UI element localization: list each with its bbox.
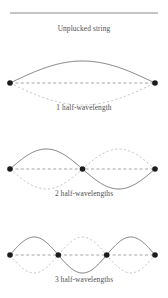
mode-3-group: 3 half-wavelengths (7, 237, 158, 284)
node-dot (152, 166, 158, 172)
node-dot (7, 252, 13, 258)
mode-2-caption: 2 half-wavelengths (55, 189, 113, 198)
unplucked-string-group: Unplucked string (10, 13, 158, 33)
node-dot (7, 80, 13, 86)
node-dot (152, 252, 158, 258)
node-dot (56, 252, 62, 258)
mode-1-curve (10, 61, 155, 83)
node-dot (7, 166, 13, 172)
mode-1-caption: 1 half-wavelength (56, 103, 111, 112)
node-dot (104, 252, 110, 258)
unplucked-string-label: Unplucked string (58, 24, 111, 33)
standing-wave-diagram: Unplucked string 1 half-wavelength 2 hal… (0, 0, 168, 298)
node-dot (152, 80, 158, 86)
mode-1-mirror-curve (10, 83, 155, 105)
mode-3-caption: 3 half-wavelengths (55, 275, 113, 284)
mode-2-group: 2 half-wavelengths (7, 149, 158, 198)
mode-1-group: 1 half-wavelength (7, 61, 158, 112)
node-dot (80, 166, 86, 172)
